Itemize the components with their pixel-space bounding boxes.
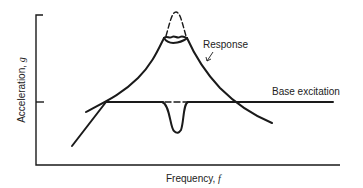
x-axis-label: Frequency, f [166, 173, 221, 184]
response-wavy-peak [164, 36, 187, 38]
input-asymptote-line [72, 102, 106, 146]
response-label: Response [203, 39, 248, 50]
response-pointer-arrow [206, 52, 213, 61]
frequency-response-diagram: Acceleration, g Frequency, f Response Ba… [0, 0, 363, 188]
base-excitation-label: Base excitation [272, 86, 340, 97]
notch [162, 102, 333, 133]
response-curve [86, 12, 272, 123]
y-axis-label: Acceleration, g [16, 57, 27, 123]
base-excitation-curve [106, 102, 333, 133]
response-undamped-peak [166, 12, 186, 36]
